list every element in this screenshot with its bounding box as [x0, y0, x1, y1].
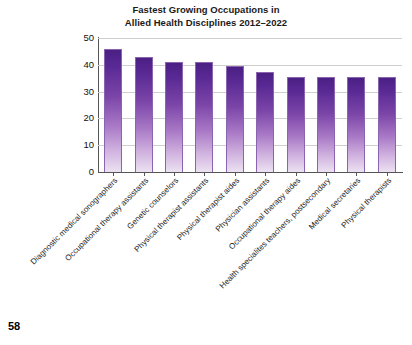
y-axis-tick-labels: 01020304050 — [50, 38, 94, 172]
x-axis-tick-label: Occupational therapy aides — [83, 176, 301, 345]
x-axis-tick-mark — [144, 173, 145, 176]
x-axis-tick-label: Physical therapists — [175, 176, 393, 345]
bar — [135, 57, 153, 172]
x-axis-tick-label: Physical therapist aides — [23, 176, 241, 345]
y-axis-tick-label: 0 — [54, 166, 94, 177]
y-axis-tick-label: 30 — [54, 86, 94, 97]
bar — [165, 62, 183, 172]
y-axis-tick-label: 40 — [54, 59, 94, 70]
x-axis-tick-label: Genetic counselors — [0, 176, 180, 345]
chart-figure: Fastest Growing Occupations in Allied He… — [0, 0, 412, 345]
bar — [195, 62, 213, 172]
gridline — [98, 38, 402, 39]
x-axis-tick-mark — [356, 173, 357, 176]
x-axis-tick-label: Occupational therapy assistants — [0, 176, 150, 345]
x-axis-tick-mark — [113, 173, 114, 176]
x-axis-tick-mark — [326, 173, 327, 176]
chart-title: Fastest Growing Occupations in Allied He… — [0, 4, 412, 29]
y-axis-tick-label: 50 — [54, 32, 94, 43]
chart-title-line-2: Allied Health Disciplines 2012–2022 — [0, 17, 412, 30]
bar — [317, 77, 335, 172]
bar — [104, 49, 122, 172]
x-axis-tick-mark — [204, 173, 205, 176]
x-axis-tick-label: Physical therapist assistants — [0, 176, 211, 345]
x-axis-tick-mark — [174, 173, 175, 176]
y-axis-tick-label: 20 — [54, 112, 94, 123]
x-axis-tick-label: Physician assistants — [53, 176, 271, 345]
x-axis-tick-mark — [296, 173, 297, 176]
bar — [256, 72, 274, 173]
x-axis-tick-mark — [387, 173, 388, 176]
plot-area — [98, 38, 402, 172]
x-axis-tick-label: Medical secretaries — [144, 176, 362, 345]
bar — [226, 66, 244, 172]
page-number: 58 — [8, 320, 20, 332]
bar — [287, 77, 305, 172]
x-axis-tick-mark — [235, 173, 236, 176]
x-axis-line — [98, 172, 403, 173]
bar — [378, 77, 396, 172]
bar — [347, 77, 365, 172]
x-axis-tick-mark — [265, 173, 266, 176]
chart-title-line-1: Fastest Growing Occupations in — [0, 4, 412, 17]
x-axis-tick-label: Health specialites teachers, postseconda… — [114, 176, 332, 345]
y-axis-tick-label: 10 — [54, 139, 94, 150]
